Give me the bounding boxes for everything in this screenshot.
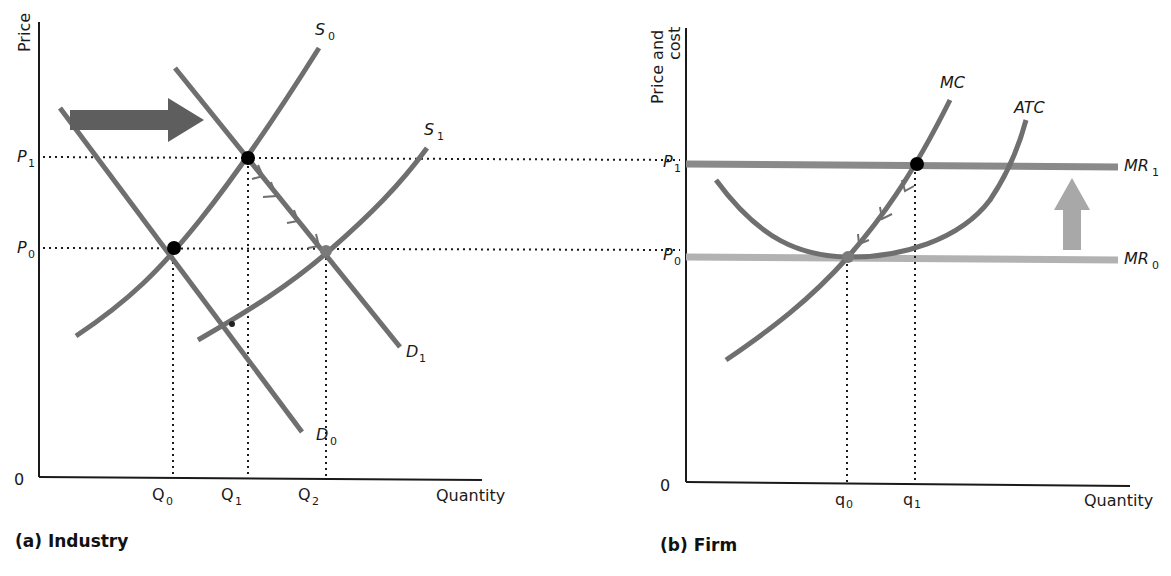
svg-text:0: 0 [166,495,173,508]
svg-text:S: S [315,20,325,39]
industry-x-axis [39,477,482,480]
svg-text:q: q [835,490,845,509]
svg-text:P: P [663,152,673,171]
label-p0: P 0 [17,238,35,261]
label-q0: Q 0 [152,485,173,508]
svg-text:0: 0 [846,498,853,511]
industry-origin-label: 0 [14,470,24,489]
label-mr0: MR 0 [1124,249,1159,272]
svg-text:1: 1 [437,130,444,143]
svg-text:1: 1 [235,495,242,508]
demand-curve-d0 [60,108,302,432]
svg-text:2: 2 [312,495,319,508]
equilibrium-point-q2-p0 [320,245,332,257]
firm-caption: (b) Firm [660,535,737,555]
svg-text:Q: Q [152,485,165,504]
equilibrium-point-q0-p0 [167,241,181,255]
svg-text:1: 1 [1152,166,1159,179]
label-q1: q 1 [903,490,921,511]
label-d1: D 1 [406,342,426,365]
svg-text:1: 1 [419,352,426,365]
svg-text:0: 0 [328,30,335,43]
svg-text:0: 0 [28,248,35,261]
svg-text:0: 0 [674,255,681,268]
svg-text:D: D [406,342,418,361]
svg-text:S: S [424,120,434,139]
equilibrium-point-q0-p0 [842,251,854,263]
equilibrium-point-q1-p1 [910,157,924,171]
svg-text:MR: MR [1124,156,1149,175]
svg-text:0: 0 [1152,259,1159,272]
svg-text:0: 0 [330,435,337,448]
industry-p0-guide [43,248,680,250]
firm-x-axis-label: Quantity [1084,491,1153,510]
firm-y-axis-label-line2: cost [665,27,684,60]
firm-x-axis [686,482,1130,486]
svg-text:1: 1 [674,162,681,175]
label-atc: ATC [1013,98,1046,117]
svg-text:Q: Q [298,485,311,504]
mr1-line [686,164,1118,167]
label-p1: P 1 [17,147,35,170]
svg-text:MR: MR [1124,249,1149,268]
mr0-line [686,257,1118,260]
svg-text:Q: Q [221,485,234,504]
svg-text:P: P [17,238,27,257]
svg-text:D: D [316,425,328,444]
svg-text:P: P [17,147,27,166]
svg-text:1: 1 [914,498,921,511]
label-s0: S 0 [315,20,335,43]
demand-shift-right-arrow-icon [70,98,204,142]
mr-shift-up-arrow-icon [1054,178,1090,250]
figure-canvas: Price Quantity 0 S 0 [0,0,1171,576]
label-mr1: MR 1 [1124,156,1159,179]
svg-text:1: 1 [28,157,35,170]
label-mc: MC [940,73,966,92]
industry-x-axis-label: Quantity [436,486,505,505]
label-q1: Q 1 [221,485,242,508]
label-p1: P 1 [663,152,681,175]
industry-y-axis-label: Price [15,13,34,52]
intersection-mark [229,321,235,327]
equilibrium-point-q1-p1 [241,151,255,165]
mc-curve [726,100,950,360]
firm-panel: Price and cost Quantity 0 MC ATC MR 1 MR [648,27,1159,555]
svg-text:q: q [903,490,913,509]
label-q0: q 0 [835,490,853,511]
industry-caption: (a) Industry [15,531,128,551]
label-q2: Q 2 [298,485,319,508]
industry-panel: Price Quantity 0 S 0 [14,13,680,551]
label-p0: P 0 [663,245,681,268]
svg-text:P: P [663,245,673,264]
industry-p1-guide [43,157,680,160]
firm-origin-label: 0 [660,476,670,495]
atc-curve [716,120,1026,257]
label-s1: S 1 [424,120,444,143]
